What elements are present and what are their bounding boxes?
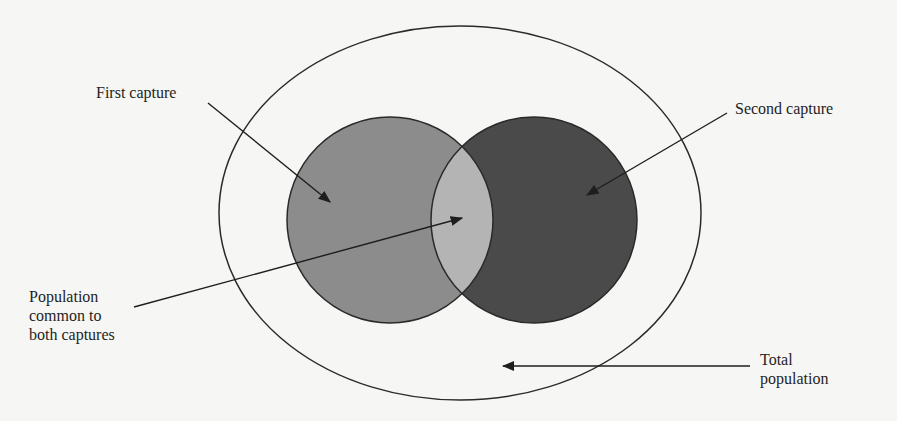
first-capture-label: First capture	[96, 83, 176, 102]
common-population-label: Population common to both captures	[29, 287, 115, 344]
total-population-label: Total population	[760, 350, 828, 388]
second-capture-label: Second capture	[735, 99, 833, 118]
